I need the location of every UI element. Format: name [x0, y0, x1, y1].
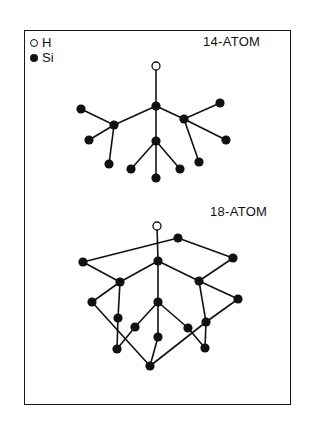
bond-line	[178, 238, 233, 258]
silicon-atom-icon	[84, 135, 93, 144]
silicon-atom-icon	[113, 313, 122, 322]
hydrogen-atom-icon	[153, 222, 161, 230]
silicon-atom-icon	[87, 297, 96, 306]
silicon-atom-icon	[215, 98, 224, 107]
bond-line	[158, 302, 188, 328]
cluster-14-atom	[76, 62, 230, 183]
silicon-atom-icon	[179, 114, 188, 123]
silicon-atom-icon	[126, 164, 135, 173]
silicon-atom-icon	[183, 323, 192, 332]
silicon-atom-icon	[145, 361, 154, 370]
bond-line	[81, 109, 114, 125]
silicon-atom-icon	[175, 164, 184, 173]
bond-line	[92, 282, 120, 302]
bond-line	[83, 262, 120, 282]
silicon-atom-icon	[153, 297, 162, 306]
bond-line	[135, 302, 158, 327]
silicon-atom-icon	[228, 253, 237, 262]
bond-line	[206, 299, 238, 322]
silicon-atom-icon	[115, 277, 124, 286]
bond-line	[118, 282, 120, 318]
silicon-atom-icon	[109, 120, 118, 129]
hydrogen-atom-icon	[152, 62, 160, 70]
bond-line	[131, 141, 156, 169]
silicon-atom-icon	[194, 157, 203, 166]
silicon-atom-icon	[153, 332, 162, 341]
bond-line	[109, 125, 114, 164]
bond-line	[156, 141, 180, 169]
bond-line	[120, 261, 158, 282]
silicon-atom-icon	[233, 294, 242, 303]
bond-line	[114, 106, 156, 125]
bond-line	[199, 281, 206, 322]
bond-line	[117, 318, 118, 349]
bond-line	[199, 258, 233, 281]
silicon-atom-icon	[153, 256, 162, 265]
silicon-atom-icon	[151, 136, 160, 145]
bond-line	[156, 106, 184, 119]
bond-line	[158, 261, 199, 281]
silicon-atom-icon	[194, 276, 203, 285]
silicon-atom-icon	[200, 343, 209, 352]
silicon-atom-icon	[151, 173, 160, 182]
silicon-atom-icon	[151, 101, 160, 110]
bond-line	[184, 103, 220, 119]
bond-line	[92, 302, 150, 366]
silicon-atom-icon	[221, 135, 230, 144]
silicon-atom-icon	[112, 344, 121, 353]
silicon-atom-icon	[78, 257, 87, 266]
silicon-atom-icon	[201, 317, 210, 326]
bond-line	[199, 281, 238, 299]
cluster-18-atom	[78, 222, 242, 371]
silicon-atom-icon	[130, 322, 139, 331]
silicon-atom-icon	[104, 159, 113, 168]
silicon-atom-icon	[76, 104, 85, 113]
bond-line	[83, 238, 178, 262]
silicon-atom-icon	[173, 233, 182, 242]
cluster-diagram	[0, 0, 309, 429]
